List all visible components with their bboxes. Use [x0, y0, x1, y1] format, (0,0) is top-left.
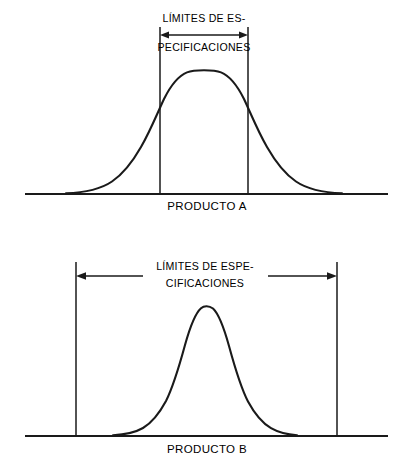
arrow-head-left-b: [76, 272, 86, 280]
spec-label-line1-a: LÍMITES DE ES-: [163, 12, 246, 24]
spec-label-line2-a: PECIFICACIONES: [158, 41, 251, 53]
caption-producto-a: PRODUCTO A: [167, 200, 246, 212]
distribution-curve-b: [113, 306, 297, 435]
arrow-head-right-b: [327, 272, 337, 280]
spec-label-line2-b: CIFICACIONES: [166, 277, 244, 289]
spec-label-line1-b: LÍMITES DE ESPE-: [156, 260, 254, 272]
arrow-head-right-a: [239, 32, 248, 39]
chart-producto-b: LÍMITES DE ESPE- CIFICACIONES PRODUCTO B: [25, 260, 388, 455]
caption-producto-b: PRODUCTO B: [167, 443, 247, 455]
arrow-head-left-a: [160, 32, 169, 39]
distribution-curve-a: [66, 70, 342, 193]
distribution-comparison-figure: LÍMITES DE ES- PECIFICACIONES PRODUCTO A…: [0, 0, 414, 464]
chart-producto-a: LÍMITES DE ES- PECIFICACIONES PRODUCTO A: [25, 12, 388, 212]
figure-root: LÍMITES DE ES- PECIFICACIONES PRODUCTO A…: [0, 0, 414, 464]
